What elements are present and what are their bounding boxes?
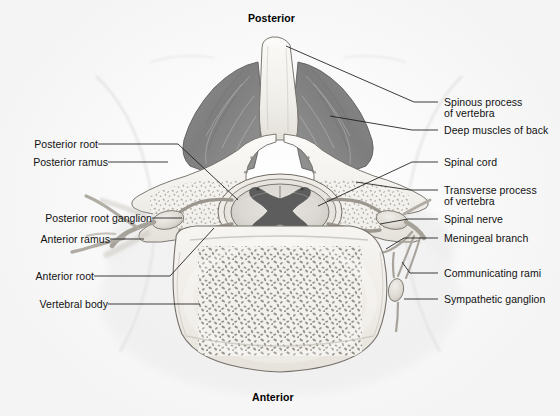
label-vertebral-body: Vertebral body xyxy=(0,299,108,311)
vertebra-cross-section-illustration xyxy=(0,0,560,416)
label-spinal-nerve: Spinal nerve xyxy=(444,214,503,226)
label-anterior-ramus: Anterior ramus xyxy=(0,234,110,246)
spinous-process-of-vertebra xyxy=(259,37,298,140)
label-posterior-root-ganglion: Posterior root ganglion xyxy=(0,213,152,225)
anatomy-figure: Posterior Anterior Posterior root Poster… xyxy=(0,0,560,416)
orientation-label-posterior: Posterior xyxy=(248,12,295,24)
label-meningeal-branch: Meningeal branch xyxy=(444,233,528,245)
label-spinal-cord: Spinal cord xyxy=(444,157,497,169)
vertebral-body xyxy=(173,226,387,372)
label-spinous-process-line2: of vertebra xyxy=(444,108,495,120)
label-transverse-process-line2: of vertebra xyxy=(444,196,495,208)
orientation-label-anterior: Anterior xyxy=(252,391,294,403)
label-anterior-root: Anterior root xyxy=(0,271,94,283)
label-posterior-root: Posterior root xyxy=(0,139,98,151)
label-sympathetic-ganglion: Sympathetic ganglion xyxy=(444,294,545,306)
label-communicating-rami: Communicating rami xyxy=(444,268,541,280)
label-posterior-ramus: Posterior ramus xyxy=(0,157,108,169)
label-deep-muscles-of-back: Deep muscles of back xyxy=(444,125,548,137)
